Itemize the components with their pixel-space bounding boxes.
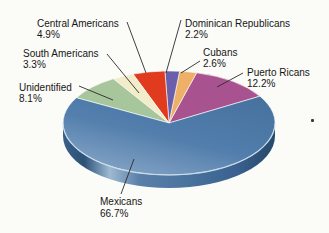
slice-label-dominican-republicans: Dominican Republicans 2.2%	[185, 18, 290, 40]
slice-label-name: Cubans	[203, 47, 237, 58]
stray-dot	[311, 119, 314, 122]
pie-chart-figure: Central Americans 4.9% Dominican Republi…	[0, 0, 329, 233]
pie-chart-canvas: Central Americans 4.9% Dominican Republi…	[0, 0, 329, 233]
slice-label-value: 8.1%	[19, 93, 42, 104]
slice-label-name: Puerto Ricans	[247, 67, 310, 78]
slice-label-value: 3.3%	[23, 59, 46, 70]
leader-line-central-americans	[127, 22, 146, 73]
slice-label-name: Dominican Republicans	[185, 18, 290, 29]
slice-label-unidentified: Unidentified 8.1%	[19, 82, 72, 104]
slice-label-value: 66.7%	[100, 208, 128, 219]
slice-label-name: Central Americans	[37, 18, 119, 29]
slice-label-name: Unidentified	[19, 82, 72, 93]
pie-slices	[63, 71, 275, 175]
slice-label-puerto-ricans: Puerto Ricans 12.2%	[247, 67, 310, 89]
slice-label-mexicans: Mexicans 66.7%	[100, 196, 142, 219]
slice-label-name: South Americans	[23, 48, 99, 59]
leader-line-dominican-republicans	[166, 20, 181, 73]
slice-label-central-americans: Central Americans 4.9%	[37, 18, 119, 40]
slice-label-south-americans: South Americans 3.3%	[23, 48, 99, 70]
slice-label-cubans: Cubans 2.6%	[203, 47, 237, 69]
slice-label-value: 12.2%	[247, 78, 275, 89]
slice-label-value: 2.6%	[203, 58, 226, 69]
slice-label-value: 4.9%	[37, 29, 60, 40]
leader-line-cubans	[181, 61, 200, 73]
slice-label-value: 2.2%	[185, 29, 208, 40]
slice-label-name: Mexicans	[100, 196, 142, 207]
